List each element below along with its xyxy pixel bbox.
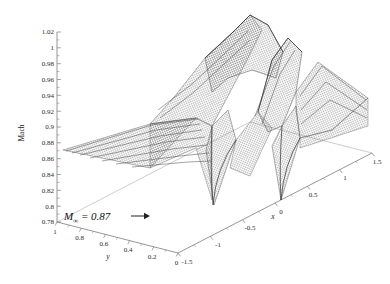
z-tick-label: 0.84 <box>42 171 55 179</box>
z-tick-label: 0.92 <box>42 108 55 116</box>
y-tick-label: 0.4 <box>124 246 133 254</box>
z-tick-label: 1.02 <box>42 28 55 36</box>
x-tick-label: -0.5 <box>244 224 256 232</box>
z-tick-labels: 0.78 0.8 0.82 0.84 0.86 0.88 0.9 0.92 0.… <box>42 28 55 226</box>
z-tick-label: 1 <box>51 44 55 52</box>
y-tick-labels: 1 0.8 0.6 0.4 0.2 0 <box>53 228 178 267</box>
svg-text:M∞ = 0.87: M∞ = 0.87 <box>63 210 111 225</box>
z-tick-label: 0.88 <box>42 139 55 147</box>
z-tick-label: 0.78 <box>42 218 55 226</box>
y-tick-label: 0.8 <box>75 234 84 242</box>
mach-surface-figure: 0.78 0.8 0.82 0.84 0.86 0.88 0.9 0.92 0.… <box>0 0 390 284</box>
x-tick-label: 1.5 <box>373 158 382 166</box>
z-tick-label: 0.98 <box>42 60 55 68</box>
z-axis-label: Mach <box>17 124 26 141</box>
annotation-value: = 0.87 <box>78 210 111 222</box>
y-tick-label: 0.6 <box>99 240 108 248</box>
x-tick-label: 0.5 <box>309 191 318 199</box>
plot-canvas: 0.78 0.8 0.82 0.84 0.86 0.88 0.9 0.92 0.… <box>0 0 390 284</box>
z-tick-label: 0.94 <box>42 92 55 100</box>
z-tick-label: 0.96 <box>42 76 55 84</box>
surface-left-flank-lower <box>150 118 212 200</box>
x-axis-label: x <box>270 212 275 221</box>
z-tick-label: 0.8 <box>45 203 54 211</box>
y-tick-label: 0.2 <box>148 253 157 261</box>
z-axis-ticks <box>57 32 61 222</box>
z-tick-label: 0.86 <box>42 155 55 163</box>
z-tick-label: 0.82 <box>42 187 55 195</box>
annotation-arrow-icon <box>131 213 150 219</box>
x-tick-label: 0 <box>279 208 283 216</box>
y-tick-label: 0 <box>175 259 179 267</box>
x-tick-label: 1 <box>343 174 347 182</box>
y-tick-label: 1 <box>53 228 57 236</box>
x-tick-label: -1 <box>215 241 221 249</box>
z-tick-label: 0.9 <box>45 123 54 131</box>
x-tick-label: -1.5 <box>181 258 193 266</box>
mach-surface <box>63 15 368 205</box>
y-axis-ticks <box>55 222 178 257</box>
y-axis-label: y <box>105 252 110 261</box>
